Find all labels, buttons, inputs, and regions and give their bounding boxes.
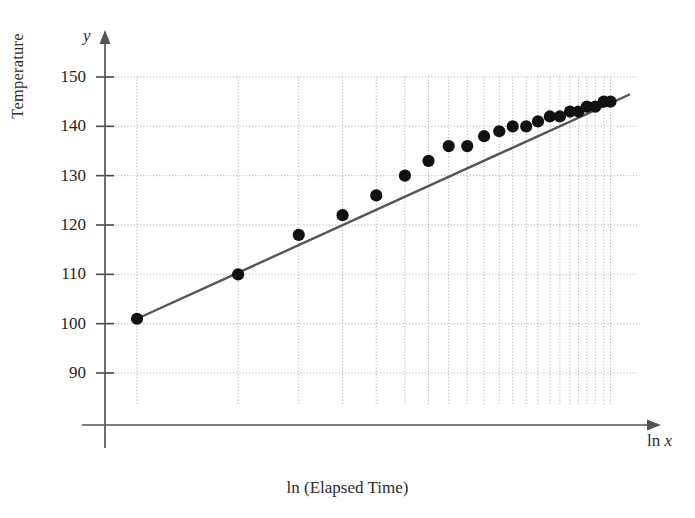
- data-point: [370, 189, 382, 201]
- axes: [82, 30, 661, 448]
- data-point: [336, 209, 348, 221]
- y-axis-tick-label: 130: [42, 167, 86, 184]
- data-point: [520, 120, 532, 132]
- y-axis-tick-label: 100: [42, 315, 86, 332]
- y-axis-title: Temperature: [8, 0, 34, 176]
- y-axis-tick-label: 110: [42, 265, 86, 282]
- x-axis-symbol: ln x: [647, 431, 672, 451]
- x-axis-arrowhead: [647, 420, 661, 431]
- data-point: [461, 140, 473, 152]
- data-point: [293, 229, 305, 241]
- x-axis-symbol-variable: x: [664, 431, 672, 450]
- data-point: [232, 268, 244, 280]
- x-axis-symbol-prefix: ln: [647, 431, 664, 450]
- data-point: [604, 96, 616, 108]
- data-point: [532, 115, 544, 127]
- trend-line: [137, 95, 629, 319]
- data-point: [131, 313, 143, 325]
- data-point: [422, 155, 434, 167]
- data-point: [493, 125, 505, 137]
- data-point: [399, 170, 411, 182]
- y-axis-arrowhead: [100, 30, 111, 44]
- gridlines: [105, 77, 637, 405]
- y-axis-symbol: y: [83, 26, 91, 46]
- data-point: [478, 130, 490, 142]
- y-axis-tick-label: 90: [42, 364, 86, 381]
- x-axis-caption: ln (Elapsed Time): [0, 478, 695, 498]
- data-point: [443, 140, 455, 152]
- y-axis-tick-label: 120: [42, 216, 86, 233]
- data-point: [507, 120, 519, 132]
- chart-figure: Temperature 15014013012011010090 y ln x …: [0, 0, 695, 518]
- y-axis-tick-label: 140: [42, 117, 86, 134]
- plot-area: [0, 0, 695, 518]
- y-axis-tick-label: 150: [42, 68, 86, 85]
- y-axis-tick-labels: 15014013012011010090: [38, 0, 86, 518]
